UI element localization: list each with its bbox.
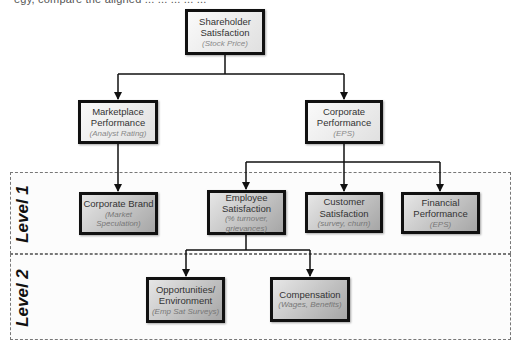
node-subtitle: (Analyst Rating) [90,129,147,139]
node-subtitle: (Wages, Benefits) [278,300,341,310]
node-marketplace-performance: Marketplace Performance (Analyst Rating) [78,100,158,144]
node-title: Customer Satisfaction [308,196,380,219]
node-compensation: Compensation (Wages, Benefits) [270,277,350,322]
node-title: Corporate Brand [83,198,153,209]
node-subtitle: (Stock Price) [202,39,248,49]
node-subtitle: (Market Speculation) [82,210,155,229]
node-corporate-performance: Corporate Performance (EPS) [305,100,383,144]
node-subtitle: (Emp Sat Surveys) [152,307,219,317]
node-subtitle: (EPS) [430,220,451,230]
node-title: Corporate Performance [308,106,380,129]
node-customer-satisfaction: Customer Satisfaction (survey, churn) [305,192,383,233]
node-title: Financial Performance [404,197,477,220]
node-title: Shareholder Satisfaction [188,16,262,39]
node-subtitle: (% turnover, grievances) [210,214,283,233]
node-title: Opportunities/ Environment [149,284,222,307]
node-subtitle: (EPS) [333,129,354,139]
node-subtitle: (survey, churn) [318,219,371,229]
node-employee-satisfaction: Employee Satisfaction (% turnover, griev… [207,190,286,235]
node-title: Employee Satisfaction [210,192,283,215]
node-title: Compensation [279,289,340,300]
node-corporate-brand: Corporate Brand (Market Speculation) [79,192,158,235]
node-title: Marketplace Performance [81,106,155,129]
node-shareholder-satisfaction: Shareholder Satisfaction (Stock Price) [185,9,265,55]
node-financial-performance: Financial Performance (EPS) [401,192,480,234]
node-opportunities-environment: Opportunities/ Environment (Emp Sat Surv… [146,277,225,323]
